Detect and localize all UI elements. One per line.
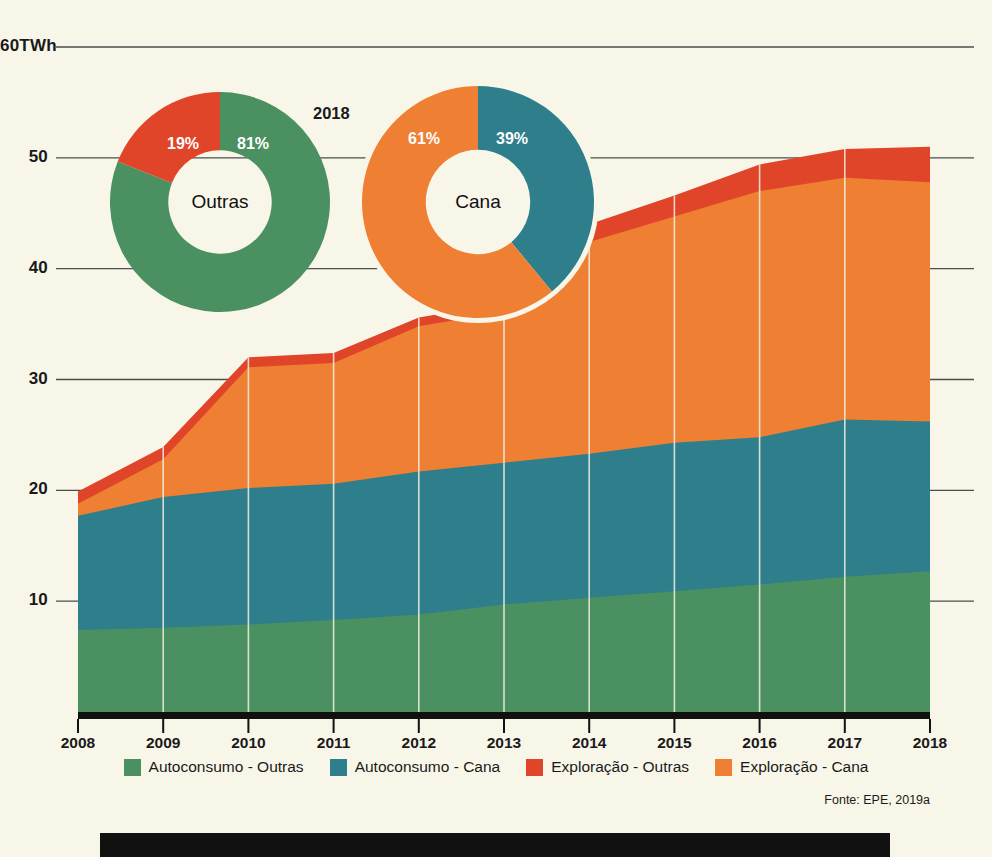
y-axis-label-50: 50	[0, 147, 48, 167]
x-axis-label-2018: 2018	[890, 734, 970, 752]
legend-label-0: Autoconsumo - Outras	[149, 758, 304, 776]
y-axis-label-10: 10	[0, 590, 48, 610]
x-axis-label-2010: 2010	[208, 734, 288, 752]
chart-legend: Autoconsumo - OutrasAutoconsumo - CanaEx…	[0, 758, 992, 776]
y-axis-label-30: 30	[0, 369, 48, 389]
source-note: Fonte: EPE, 2019a	[824, 793, 930, 807]
x-axis-label-2016: 2016	[720, 734, 800, 752]
y-axis-label-40: 40	[0, 258, 48, 278]
x-axis-label-2009: 2009	[123, 734, 203, 752]
donut-outras: Outras 81% 19%	[110, 92, 330, 312]
x-axis-label-2008: 2008	[38, 734, 118, 752]
chart-page: 102030405060TWh 200820092010201120122013…	[0, 0, 992, 857]
x-axis-label-2017: 2017	[805, 734, 885, 752]
axis-group	[78, 712, 930, 719]
x-axis-label-2014: 2014	[549, 734, 629, 752]
donut-outras-svg	[110, 92, 330, 312]
x-axis-line	[78, 712, 930, 719]
legend-item-3[interactable]: Exploração - Cana	[715, 758, 868, 776]
donut-cana: Cana 61% 39%	[356, 80, 600, 324]
legend-label-2: Exploração - Outras	[551, 758, 689, 776]
legend-item-2[interactable]: Exploração - Outras	[526, 758, 689, 776]
legend-swatch-icon-1	[330, 759, 347, 776]
y-axis-label-20: 20	[0, 479, 48, 499]
legend-label-3: Exploração - Cana	[740, 758, 868, 776]
x-axis-label-2011: 2011	[294, 734, 374, 752]
x-axis-label-2012: 2012	[379, 734, 459, 752]
legend-item-1[interactable]: Autoconsumo - Cana	[330, 758, 501, 776]
legend-swatch-icon-0	[124, 759, 141, 776]
footer-bar	[100, 833, 890, 857]
tick-group	[78, 719, 930, 733]
legend-swatch-icon-2	[526, 759, 543, 776]
legend-item-0[interactable]: Autoconsumo - Outras	[124, 758, 304, 776]
x-axis-label-2015: 2015	[634, 734, 714, 752]
x-axis-label-2013: 2013	[464, 734, 544, 752]
donut-cana-svg	[356, 80, 600, 324]
legend-label-1: Autoconsumo - Cana	[355, 758, 501, 776]
area-chart-plot: 102030405060TWh 200820092010201120122013…	[0, 0, 992, 760]
y-axis-label-60: 60TWh	[0, 36, 48, 56]
legend-swatch-icon-3	[715, 759, 732, 776]
